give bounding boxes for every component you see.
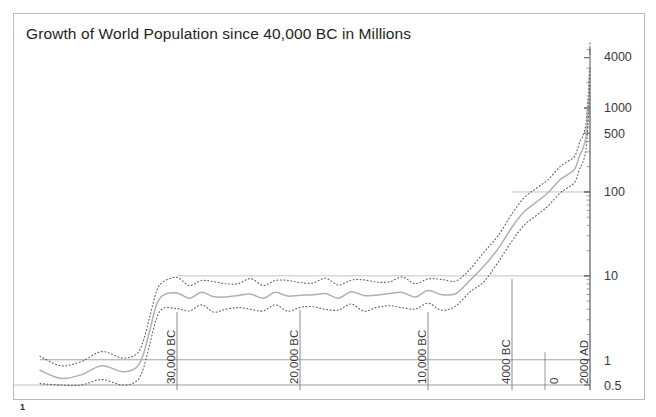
x-axis-label-2: 10,000 BC [416,330,428,384]
y-axis-label-0-5: 0.5 [604,379,621,393]
y-axis-label-1: 1 [604,354,611,368]
y-axis-label-1000: 1000 [604,101,632,115]
y-axis-label-4000: 4000 [604,50,632,64]
y-axis-label-100: 100 [604,185,625,199]
x-axis-label-0: 30,000 BC [165,330,177,384]
x-axis-label-5: 2000 AD [578,340,590,384]
x-axis-label-4: 0 [548,378,560,384]
chart-frame [13,13,645,400]
chart-title: Growth of World Population since 40,000 … [26,25,411,43]
chart-screenshot: Growth of World Population since 40,000 … [0,0,656,417]
y-axis-label-500: 500 [604,127,625,141]
y-axis-label-10: 10 [604,269,618,283]
x-axis-label-3: 4000 BC [500,339,512,384]
footnote-marker: 1 [20,402,25,412]
x-axis-label-1: 20,000 BC [288,330,300,384]
